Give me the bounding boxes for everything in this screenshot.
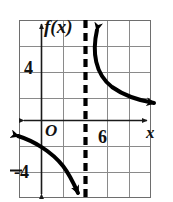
y-tick-label-negative-4: -4 (14, 163, 29, 181)
x-axis-label: x (146, 124, 155, 141)
rational-function-graph: f(x) x O 4 -4 6 (0, 0, 173, 202)
y-tick-label-4: 4 (24, 59, 33, 77)
function-axis-label: f(x) (44, 17, 72, 36)
x-tick-label-6: 6 (98, 128, 107, 146)
origin-label: O (45, 122, 57, 139)
